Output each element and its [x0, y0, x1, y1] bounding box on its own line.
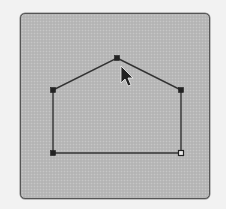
arrow-pointer-icon — [121, 66, 133, 86]
house-polygon[interactable] — [53, 58, 181, 153]
vertex-handle[interactable] — [51, 151, 56, 156]
vertex-handle[interactable] — [115, 56, 120, 61]
vertex-handles — [51, 56, 184, 156]
shape-layer — [0, 0, 226, 209]
vertex-handle[interactable] — [51, 88, 56, 93]
vertex-handle[interactable] — [179, 88, 184, 93]
vertex-handle[interactable] — [179, 151, 184, 156]
